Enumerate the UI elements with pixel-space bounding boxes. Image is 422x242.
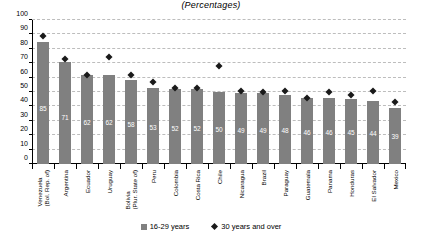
bar-column: 62 bbox=[76, 20, 98, 164]
x-label-slot: Colombia bbox=[164, 170, 186, 218]
bar-column: 49 bbox=[252, 20, 274, 164]
diamond-marker bbox=[127, 71, 134, 78]
bar: 62 bbox=[103, 75, 116, 164]
legend-item[interactable]: 16-29 years bbox=[141, 222, 190, 231]
bar-column: 50 bbox=[208, 20, 230, 164]
bar: 50 bbox=[213, 92, 226, 164]
bar-column: 52 bbox=[164, 20, 186, 164]
x-axis-label: Guatemala bbox=[304, 170, 311, 200]
bar-column: 53 bbox=[142, 20, 164, 164]
x-label-slot: Guatemala bbox=[296, 170, 318, 218]
chart-title: (Percentages) bbox=[0, 0, 422, 10]
x-axis-tick bbox=[384, 164, 406, 169]
y-axis-tick-label: 40 bbox=[20, 96, 28, 103]
diamond-marker bbox=[281, 87, 288, 94]
bar: 53 bbox=[147, 88, 160, 164]
x-axis-tick bbox=[274, 164, 296, 169]
bar-column: 85 bbox=[32, 20, 54, 164]
bar: 62 bbox=[81, 75, 94, 164]
bar-value-label: 48 bbox=[279, 128, 292, 135]
x-axis-tick bbox=[362, 164, 384, 169]
bar-column: 52 bbox=[186, 20, 208, 164]
legend-square-icon bbox=[141, 224, 147, 230]
legend-diamond-icon bbox=[211, 223, 218, 230]
bar: 58 bbox=[125, 80, 138, 164]
bar-value-label: 46 bbox=[301, 130, 314, 137]
bar-value-label: 53 bbox=[147, 125, 160, 132]
x-axis-tick bbox=[296, 164, 318, 169]
bar-value-label: 49 bbox=[257, 128, 270, 135]
y-axis-tick-label: 90 bbox=[20, 24, 28, 31]
x-axis-tick bbox=[142, 164, 164, 169]
bar-column: 62 bbox=[98, 20, 120, 164]
bar-column: 71 bbox=[54, 20, 76, 164]
bar-value-label: 52 bbox=[191, 126, 204, 133]
bar: 49 bbox=[257, 93, 270, 164]
x-axis-tick bbox=[32, 164, 54, 169]
bar-column: 46 bbox=[318, 20, 340, 164]
bar-value-label: 49 bbox=[235, 128, 248, 135]
x-label-slot: Venezuela(Bol. Rep. of) bbox=[32, 170, 54, 218]
x-label-slot: Brazil bbox=[252, 170, 274, 218]
x-label-slot: Uruguay bbox=[98, 170, 120, 218]
diamond-marker bbox=[149, 78, 156, 85]
x-label-slot: Argentina bbox=[54, 170, 76, 218]
x-axis-label: Nicaragua bbox=[238, 170, 245, 198]
bar-column: 45 bbox=[340, 20, 362, 164]
x-label-slot: Bolivia(Plur. State of) bbox=[120, 170, 142, 218]
bar: 39 bbox=[389, 108, 402, 164]
bar-value-label: 52 bbox=[169, 126, 182, 133]
x-label-slot: Nicaragua bbox=[230, 170, 252, 218]
x-axis-label: Venezuela(Bol. Rep. of) bbox=[36, 170, 50, 206]
x-axis-tick bbox=[186, 164, 208, 169]
diamond-marker bbox=[39, 32, 46, 39]
diamond-marker bbox=[215, 63, 222, 70]
y-axis-tick-label: 30 bbox=[20, 110, 28, 117]
bar-value-label: 39 bbox=[389, 134, 402, 141]
y-axis-tick-label: 60 bbox=[20, 67, 28, 74]
y-axis-tick-label: 80 bbox=[20, 38, 28, 45]
legend-item[interactable]: 30 years and over bbox=[211, 222, 281, 231]
bar: 45 bbox=[345, 99, 358, 164]
diamond-marker bbox=[347, 91, 354, 98]
x-axis-tick bbox=[76, 164, 98, 169]
x-axis-label: Honduras bbox=[348, 170, 355, 197]
y-axis-tick-label: 0 bbox=[24, 154, 28, 161]
x-axis-tick bbox=[120, 164, 142, 169]
x-label-slot: Costa Rica bbox=[186, 170, 208, 218]
bar-value-label: 62 bbox=[103, 120, 116, 127]
bar-value-label: 58 bbox=[125, 122, 138, 129]
x-label-slot: Honduras bbox=[340, 170, 362, 218]
y-axis-tick-label: 10 bbox=[20, 139, 28, 146]
legend-label: 30 years and over bbox=[221, 222, 281, 231]
x-label-slot: Peru bbox=[142, 170, 164, 218]
y-axis-tick-label: 100 bbox=[16, 10, 28, 17]
x-axis-tick bbox=[208, 164, 230, 169]
bar: 44 bbox=[367, 101, 380, 164]
bar-value-label: 62 bbox=[81, 120, 94, 127]
chart-legend: 16-29 years30 years and over bbox=[0, 222, 422, 231]
bar-value-label: 45 bbox=[345, 130, 358, 137]
bar: 49 bbox=[235, 93, 248, 164]
x-label-slot: Paraguay bbox=[274, 170, 296, 218]
x-axis-label: Ecuador bbox=[84, 170, 91, 193]
y-axis-tick-label: 70 bbox=[20, 53, 28, 60]
x-axis-tick bbox=[230, 164, 252, 169]
bar: 71 bbox=[59, 62, 72, 164]
x-axis-tick bbox=[318, 164, 340, 169]
x-axis-label: Chile bbox=[216, 170, 223, 184]
y-axis-tick-label: 50 bbox=[20, 82, 28, 89]
bar-value-label: 85 bbox=[37, 106, 50, 113]
bar-value-label: 71 bbox=[59, 115, 72, 122]
bar-column: 44 bbox=[362, 20, 384, 164]
x-axis-label: El Salvador bbox=[370, 170, 377, 202]
diamond-marker bbox=[325, 88, 332, 95]
bar: 46 bbox=[301, 98, 314, 164]
bar-column: 48 bbox=[274, 20, 296, 164]
x-label-slot: Ecuador bbox=[76, 170, 98, 218]
x-axis-label: Mexico bbox=[392, 170, 399, 190]
chart-container: (Percentages) 1009080706050403020100 857… bbox=[0, 0, 422, 242]
bar-value-label: 44 bbox=[367, 131, 380, 138]
x-axis-label: Argentina bbox=[62, 170, 69, 197]
bar-column: 58 bbox=[120, 20, 142, 164]
